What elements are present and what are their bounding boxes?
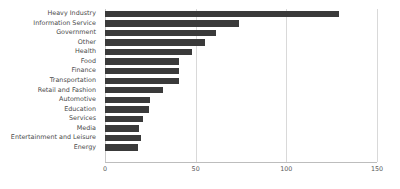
category-axis-labels: Heavy IndustryInformation ServiceGovernm… [0, 9, 100, 162]
bar-row [105, 114, 377, 124]
category-label: Information Service [0, 19, 100, 29]
bar [105, 144, 138, 150]
category-label: Other [0, 38, 100, 48]
bar [105, 116, 143, 122]
category-label: Services [0, 114, 100, 124]
category-label: Finance [0, 66, 100, 76]
category-label: Transportation [0, 76, 100, 86]
category-label: Media [0, 124, 100, 134]
bar [105, 106, 149, 112]
category-label: Health [0, 47, 100, 57]
bar [105, 78, 179, 84]
x-tick-label-100: 100 [280, 165, 292, 173]
bar [105, 11, 339, 17]
bar-row [105, 95, 377, 105]
bar-row [105, 124, 377, 134]
bar [105, 125, 139, 131]
bar [105, 20, 239, 26]
bar [105, 135, 141, 141]
x-axis-line [105, 162, 377, 163]
plot-area [105, 9, 377, 162]
bar-row [105, 143, 377, 153]
bar [105, 68, 179, 74]
x-tick-label-50: 50 [192, 165, 200, 173]
bar [105, 87, 163, 93]
bar [105, 30, 216, 36]
bar-row [105, 86, 377, 96]
category-label: Retail and Fashion [0, 86, 100, 96]
category-label: Energy [0, 143, 100, 153]
bar [105, 58, 179, 64]
bar-row [105, 38, 377, 48]
bar-row [105, 76, 377, 86]
category-label: Education [0, 105, 100, 115]
category-label: Government [0, 28, 100, 38]
category-label: Entertainment and Leisure [0, 133, 100, 143]
x-axis-tick-labels: 050100150 [0, 165, 400, 179]
x-tick-label-150: 150 [371, 165, 383, 173]
bar [105, 97, 150, 103]
bar-row [105, 47, 377, 57]
category-label: Food [0, 57, 100, 67]
bar [105, 39, 205, 45]
bar [105, 49, 192, 55]
bars-container [105, 9, 377, 162]
bar-row [105, 133, 377, 143]
bar-row [105, 28, 377, 38]
bar-row [105, 66, 377, 76]
x-tick-label-0: 0 [103, 165, 107, 173]
category-label: Heavy Industry [0, 9, 100, 19]
bar-chart: Heavy IndustryInformation ServiceGovernm… [0, 0, 400, 189]
gridline-150 [377, 9, 378, 162]
bar-row [105, 105, 377, 115]
bar-row [105, 57, 377, 67]
bar-row [105, 19, 377, 29]
bar-row [105, 9, 377, 19]
category-label: Automotive [0, 95, 100, 105]
